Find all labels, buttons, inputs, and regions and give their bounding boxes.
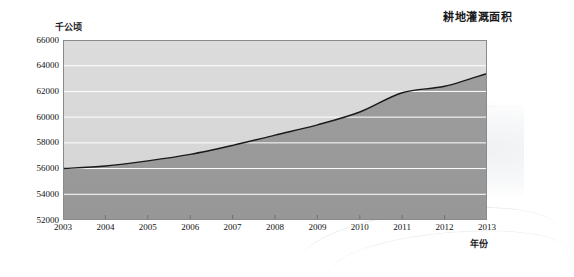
y-axis-tick-label: 54000 (15, 190, 59, 199)
x-axis-tick-label: 2003 (54, 223, 72, 232)
plot-area (63, 40, 487, 220)
y-axis-tick-labels: 6600064000620006000058000560005400052000 (13, 40, 59, 220)
x-axis-tick-label: 2005 (139, 223, 157, 232)
x-axis-tick-label: 2013 (478, 223, 496, 232)
y-axis-tick-label: 52000 (15, 216, 59, 225)
x-axis-tick-label: 2006 (181, 223, 199, 232)
x-axis-tick-label: 2004 (96, 223, 114, 232)
x-axis-tick-label: 2009 (308, 223, 326, 232)
x-axis-tick-label: 2012 (436, 223, 454, 232)
x-axis-tick-label: 2007 (224, 223, 242, 232)
y-axis-tick-label: 66000 (15, 36, 59, 45)
x-axis-tick-label: 2010 (351, 223, 369, 232)
chart-title: 耕地灌溉面积 (443, 8, 512, 24)
y-axis-tick-label: 64000 (15, 61, 59, 70)
x-axis-tick-label: 2011 (393, 223, 411, 232)
area-chart-svg (63, 40, 487, 220)
x-axis-title: 年份 (470, 237, 488, 250)
y-axis-title: 千公顷 (55, 20, 82, 33)
x-axis-tick-labels: 2003200420052006200720082009201020112012… (63, 223, 487, 237)
y-axis-tick-label: 56000 (15, 164, 59, 173)
x-axis-tick-label: 2008 (266, 223, 284, 232)
y-axis-tick-label: 62000 (15, 87, 59, 96)
y-axis-tick-label: 58000 (15, 138, 59, 147)
y-axis-tick-label: 60000 (15, 113, 59, 122)
